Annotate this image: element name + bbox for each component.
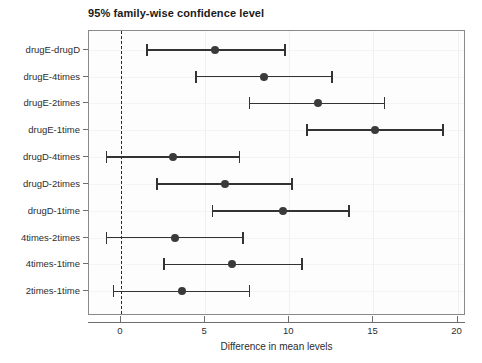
y-axis-tick-mark	[83, 210, 88, 211]
x-axis-title: Difference in mean levels	[88, 341, 465, 352]
estimate-point	[221, 180, 229, 188]
estimate-point	[371, 126, 379, 134]
interval-upper-cap	[242, 232, 244, 244]
confidence-interval-row	[89, 149, 464, 165]
y-axis-tick-label: drugE-drugD	[26, 43, 80, 54]
estimate-point	[314, 99, 322, 107]
interval-upper-cap	[291, 178, 293, 190]
interval-lower-cap	[212, 205, 214, 217]
y-axis-tick-mark	[83, 290, 88, 291]
estimate-point	[169, 153, 177, 161]
confidence-interval-row	[89, 176, 464, 192]
confidence-interval-row	[89, 122, 464, 138]
y-axis-tick-label: drugD-4times	[23, 151, 80, 162]
y-axis-tick-label: drugD-1time	[28, 204, 80, 215]
confidence-interval-row	[89, 230, 464, 246]
y-axis-tick-mark	[83, 76, 88, 77]
interval-upper-cap	[384, 97, 386, 109]
estimate-point	[260, 73, 268, 81]
interval-upper-cap	[442, 124, 444, 136]
interval-lower-cap	[113, 285, 115, 297]
plot-panel	[88, 30, 465, 315]
interval-lower-cap	[195, 71, 197, 83]
confidence-interval-row	[89, 203, 464, 219]
y-axis-tick-mark	[83, 237, 88, 238]
x-axis-tick-mark	[457, 316, 458, 322]
estimate-point	[228, 260, 236, 268]
interval-lower-cap	[106, 151, 108, 163]
x-axis-tick-label: 5	[201, 325, 206, 336]
interval-lower-cap	[156, 178, 158, 190]
y-axis-tick-mark	[83, 156, 88, 157]
x-axis-tick-mark	[204, 316, 205, 322]
interval-lower-cap	[106, 232, 108, 244]
interval-upper-cap	[301, 258, 303, 270]
chart-title: 95% family-wise confidence level	[88, 7, 264, 19]
y-axis-tick-mark	[83, 49, 88, 50]
confidence-interval-row	[89, 69, 464, 85]
y-axis-tick-label: drugE-4times	[24, 70, 81, 81]
y-axis-tick-label: drugE-2times	[24, 97, 81, 108]
interval-lower-cap	[249, 97, 251, 109]
estimate-point	[171, 234, 179, 242]
interval-lower-cap	[306, 124, 308, 136]
y-axis: drugE-drugDdrugE-4timesdrugE-2timesdrugE…	[0, 0, 80, 363]
x-axis-tick-label: 20	[451, 325, 462, 336]
y-axis-tick-label: 4times-1time	[26, 258, 80, 269]
x-axis-line	[88, 322, 465, 323]
confidence-interval-row	[89, 95, 464, 111]
x-axis-tick-mark	[372, 316, 373, 322]
x-axis-tick-label: 10	[283, 325, 294, 336]
interval-lower-cap	[163, 258, 165, 270]
interval-upper-cap	[331, 71, 333, 83]
estimate-point	[279, 207, 287, 215]
interval-upper-cap	[284, 44, 286, 56]
x-axis-tick-label: 0	[117, 325, 122, 336]
x-axis-tick-mark	[120, 316, 121, 322]
interval-upper-cap	[239, 151, 241, 163]
confidence-interval-chart: 95% family-wise confidence level drugE-d…	[0, 0, 482, 363]
y-axis-tick-label: 2times-1time	[26, 285, 80, 296]
confidence-interval-row	[89, 256, 464, 272]
interval-upper-cap	[348, 205, 350, 217]
y-axis-tick-mark	[83, 263, 88, 264]
y-axis-tick-label: 4times-2times	[21, 231, 80, 242]
y-axis-tick-label: drugE-1time	[28, 124, 80, 135]
interval-upper-cap	[249, 285, 251, 297]
interval-lower-cap	[146, 44, 148, 56]
y-axis-tick-mark	[83, 129, 88, 130]
y-axis-tick-label: drugD-2times	[23, 177, 80, 188]
estimate-point	[211, 46, 219, 54]
confidence-interval-row	[89, 283, 464, 299]
estimate-point	[178, 287, 186, 295]
confidence-interval-row	[89, 42, 464, 58]
x-axis-tick-mark	[288, 316, 289, 322]
y-axis-tick-mark	[83, 183, 88, 184]
x-axis-tick-label: 15	[367, 325, 378, 336]
y-axis-tick-mark	[83, 102, 88, 103]
